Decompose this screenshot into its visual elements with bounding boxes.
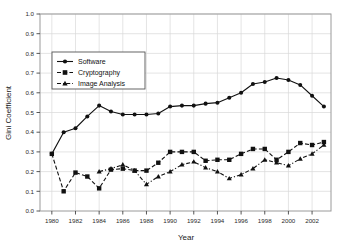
data-point-marker xyxy=(298,141,302,145)
data-point-marker xyxy=(251,82,255,86)
data-point-marker xyxy=(121,166,125,170)
legend-label: Software xyxy=(78,58,106,65)
y-tick-label: 0.8 xyxy=(25,50,34,57)
data-point-marker xyxy=(227,96,231,100)
data-point-marker xyxy=(61,189,65,193)
data-point-marker xyxy=(180,104,184,108)
y-tick-label: 0.3 xyxy=(25,148,34,155)
data-point-marker xyxy=(263,80,267,84)
data-point-marker xyxy=(286,78,290,82)
legend-marker-circle xyxy=(63,59,67,63)
data-point-marker xyxy=(144,168,148,172)
data-point-marker xyxy=(62,130,66,134)
y-axis-title: Gini Coefficient xyxy=(4,85,13,140)
x-tick-label: 2000 xyxy=(282,217,296,224)
data-point-marker xyxy=(192,150,196,154)
y-tick-label: 0.2 xyxy=(25,168,34,175)
data-point-marker xyxy=(168,150,172,154)
gini-coefficient-line-chart: 1980198219841986198819901992199419961998… xyxy=(0,0,343,244)
data-point-marker xyxy=(239,91,243,95)
data-point-marker xyxy=(286,150,290,154)
legend-label: Cryptography xyxy=(78,69,121,77)
chart-legend: SoftwareCryptographyImage Analysis xyxy=(52,52,145,89)
data-point-marker xyxy=(121,112,125,116)
data-point-marker xyxy=(263,147,267,151)
data-point-marker xyxy=(156,161,160,165)
x-tick-label: 1998 xyxy=(258,217,272,224)
data-point-marker xyxy=(180,150,184,154)
x-tick-label: 1982 xyxy=(69,217,83,224)
x-tick-label: 1994 xyxy=(211,217,225,224)
x-tick-label: 1980 xyxy=(45,217,59,224)
y-tick-label: 0.5 xyxy=(25,109,34,116)
y-tick-label: 1.0 xyxy=(25,10,34,17)
x-axis-title: Year xyxy=(178,233,195,242)
data-point-marker xyxy=(97,104,101,108)
y-tick-label: 0.1 xyxy=(25,188,34,195)
chart-background xyxy=(0,0,343,244)
x-tick-label: 1984 xyxy=(92,217,106,224)
data-point-marker xyxy=(97,186,101,190)
data-point-marker xyxy=(73,126,77,130)
y-tick-label: 0.7 xyxy=(25,69,34,76)
data-point-marker xyxy=(144,112,148,116)
data-point-marker xyxy=(239,152,243,156)
data-point-marker xyxy=(310,94,314,98)
data-point-marker xyxy=(192,104,196,108)
x-tick-label: 1986 xyxy=(116,217,130,224)
x-tick-label: 2002 xyxy=(305,217,319,224)
data-point-marker xyxy=(322,105,326,109)
data-point-marker xyxy=(85,114,89,118)
data-point-marker xyxy=(251,147,255,151)
data-point-marker xyxy=(227,158,231,162)
data-point-marker xyxy=(310,143,314,147)
chart-container: 1980198219841986198819901992199419961998… xyxy=(0,0,343,244)
data-point-marker xyxy=(50,152,54,156)
x-tick-label: 1988 xyxy=(140,217,154,224)
y-tick-label: 0.0 xyxy=(25,207,34,214)
data-point-marker xyxy=(133,112,137,116)
data-point-marker xyxy=(168,105,172,109)
data-point-marker xyxy=(298,83,302,87)
x-tick-label: 1992 xyxy=(187,217,201,224)
x-tick-label: 1990 xyxy=(163,217,177,224)
legend-label: Image Analysis xyxy=(78,80,126,88)
data-point-marker xyxy=(85,174,89,178)
y-tick-label: 0.4 xyxy=(25,128,34,135)
data-point-marker xyxy=(204,102,208,106)
x-tick-label: 1996 xyxy=(234,217,248,224)
data-point-marker xyxy=(215,158,219,162)
data-point-marker xyxy=(203,159,207,163)
y-tick-label: 0.6 xyxy=(25,89,34,96)
data-point-marker xyxy=(275,76,279,80)
data-point-marker xyxy=(156,111,160,115)
legend-marker-square xyxy=(63,70,68,75)
data-point-marker xyxy=(73,170,77,174)
y-tick-label: 0.9 xyxy=(25,30,34,37)
data-point-marker xyxy=(109,109,113,113)
data-point-marker xyxy=(215,101,219,105)
